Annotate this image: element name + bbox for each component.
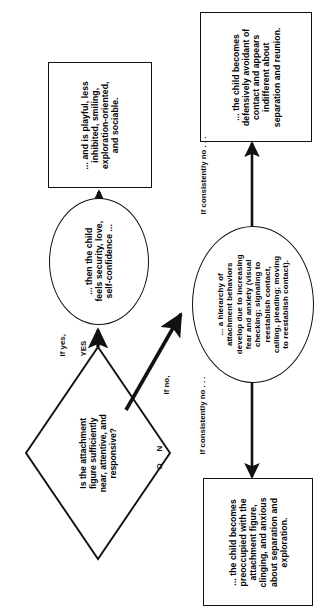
secure-state-text: ... then the child feels security, love,… <box>84 221 114 302</box>
secure-outcome-node: ... and is playful, less inhibited, smil… <box>48 62 152 188</box>
secure-outcome-text: ... and is playful, less inhibited, smil… <box>80 81 121 169</box>
decision-node-label: Is the attachment figure sufficiently ne… <box>54 386 142 520</box>
edge-label-if-no-text: If no, <box>162 351 171 395</box>
edge-label-consistently-no-top-text: If consistently no . . . <box>199 115 208 215</box>
preoccupied-outcome-text: ... the child becomes preoccupied with t… <box>228 497 289 587</box>
secure-state-node: ... then the child feels security, love,… <box>49 198 149 325</box>
avoidant-outcome-text: ... the child becomes defensively avoida… <box>231 27 282 127</box>
avoidant-outcome-node: ... the child becomes defensively avoida… <box>200 12 312 142</box>
edge-label-consistently-no-bottom: If consistently no . . . <box>152 400 252 500</box>
edge-label-yes-text: YES <box>79 313 88 357</box>
edge-label-consistently-no-top: If consistently no . . . <box>153 160 253 260</box>
flowchart-canvas: Is the attachment figure sufficiently ne… <box>0 0 333 614</box>
decision-node-text: Is the attachment figure sufficiently ne… <box>78 414 119 492</box>
anxiety-hierarchy-text: ... a hierarchy of attachment behaviors … <box>216 255 291 355</box>
edge-label-yes: YES <box>61 330 105 374</box>
edge-label-consistently-no-bottom-text: If consistently no . . . <box>198 355 207 455</box>
